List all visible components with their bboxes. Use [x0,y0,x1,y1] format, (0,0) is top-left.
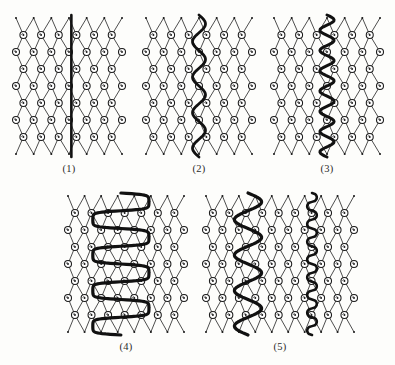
lattice-drawing-1 [10,12,128,160]
panel-label-1: (1) [10,163,128,174]
panel-label-4: (4) [62,341,190,352]
lattice-drawing-3 [268,12,386,160]
lattice-drawing-4 [62,190,190,338]
lattice-panel-4: (4) [62,190,190,356]
lattice-panel-1: (1) [10,12,128,178]
panel-label-3: (3) [268,163,386,174]
panel-label-5: (5) [200,341,360,352]
lattice-atoms [203,195,358,333]
lattice-atoms [13,17,126,155]
lattice-panel-5: (5) [200,190,360,356]
lattice-drawing-2 [140,12,258,160]
figure-canvas: (1)(2)(3)(4)(5) [0,0,395,365]
panel-label-2: (2) [140,163,258,174]
lattice-drawing-5 [200,190,360,338]
lattice-panel-3: (3) [268,12,386,178]
lattice-panel-2: (2) [140,12,258,178]
